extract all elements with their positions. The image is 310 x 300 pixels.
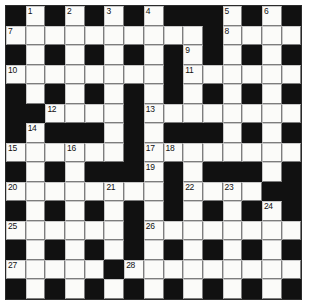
crossword-open-cell[interactable]: 1 [26,6,46,26]
crossword-open-cell[interactable] [104,65,124,85]
crossword-open-cell[interactable] [282,143,302,163]
crossword-open-cell[interactable] [262,65,282,85]
crossword-open-cell[interactable] [104,143,124,163]
crossword-open-cell[interactable] [85,221,105,241]
crossword-open-cell[interactable] [242,143,262,163]
crossword-open-cell[interactable] [203,221,223,241]
crossword-open-cell[interactable] [262,123,282,143]
crossword-open-cell[interactable]: 15 [6,143,26,163]
crossword-open-cell[interactable]: 19 [144,162,164,182]
crossword-open-cell[interactable] [144,45,164,65]
crossword-open-cell[interactable] [144,26,164,46]
crossword-open-cell[interactable]: 28 [124,260,144,280]
crossword-open-cell[interactable] [203,143,223,163]
crossword-open-cell[interactable] [26,162,46,182]
crossword-open-cell[interactable] [65,45,85,65]
crossword-open-cell[interactable] [223,65,243,85]
crossword-open-cell[interactable]: 8 [223,26,243,46]
crossword-open-cell[interactable] [262,162,282,182]
crossword-open-cell[interactable]: 20 [6,182,26,202]
crossword-open-cell[interactable]: 17 [144,143,164,163]
crossword-open-cell[interactable] [183,201,203,221]
crossword-open-cell[interactable] [45,143,65,163]
crossword-open-cell[interactable]: 5 [223,6,243,26]
crossword-open-cell[interactable] [26,279,46,299]
crossword-open-cell[interactable] [183,143,203,163]
crossword-open-cell[interactable] [203,65,223,85]
crossword-open-cell[interactable] [282,65,302,85]
crossword-open-cell[interactable] [26,143,46,163]
crossword-open-cell[interactable] [203,104,223,124]
crossword-open-cell[interactable] [262,260,282,280]
crossword-open-cell[interactable] [104,221,124,241]
crossword-open-cell[interactable] [65,84,85,104]
crossword-open-cell[interactable]: 2 [65,6,85,26]
crossword-open-cell[interactable] [45,182,65,202]
crossword-open-cell[interactable] [65,279,85,299]
crossword-open-cell[interactable] [164,260,184,280]
crossword-open-cell[interactable] [65,260,85,280]
crossword-open-cell[interactable] [242,221,262,241]
crossword-open-cell[interactable]: 4 [144,6,164,26]
crossword-open-cell[interactable] [223,260,243,280]
crossword-open-cell[interactable] [85,104,105,124]
crossword-open-cell[interactable]: 16 [65,143,85,163]
crossword-open-cell[interactable] [183,260,203,280]
crossword-open-cell[interactable] [144,182,164,202]
crossword-open-cell[interactable]: 13 [144,104,164,124]
crossword-open-cell[interactable] [65,221,85,241]
crossword-open-cell[interactable] [104,201,124,221]
crossword-open-cell[interactable] [183,279,203,299]
crossword-open-cell[interactable] [164,104,184,124]
crossword-open-cell[interactable] [183,104,203,124]
crossword-open-cell[interactable]: 21 [104,182,124,202]
crossword-open-cell[interactable] [104,279,124,299]
crossword-open-cell[interactable] [104,26,124,46]
crossword-open-cell[interactable] [85,143,105,163]
crossword-open-cell[interactable]: 23 [223,182,243,202]
crossword-open-cell[interactable] [124,65,144,85]
crossword-open-cell[interactable] [223,221,243,241]
crossword-open-cell[interactable] [183,26,203,46]
crossword-open-cell[interactable] [223,104,243,124]
crossword-open-cell[interactable]: 10 [6,65,26,85]
crossword-open-cell[interactable] [242,104,262,124]
crossword-open-cell[interactable] [183,84,203,104]
crossword-open-cell[interactable] [65,26,85,46]
crossword-open-cell[interactable] [124,182,144,202]
crossword-open-cell[interactable] [65,65,85,85]
crossword-open-cell[interactable] [282,260,302,280]
crossword-open-cell[interactable] [223,201,243,221]
crossword-open-cell[interactable] [85,260,105,280]
crossword-open-cell[interactable] [282,221,302,241]
crossword-open-cell[interactable] [104,45,124,65]
crossword-open-cell[interactable] [223,279,243,299]
crossword-open-cell[interactable] [144,84,164,104]
crossword-open-cell[interactable]: 7 [6,26,26,46]
crossword-open-cell[interactable] [242,26,262,46]
crossword-open-cell[interactable] [26,65,46,85]
crossword-open-cell[interactable]: 22 [183,182,203,202]
crossword-open-cell[interactable]: 24 [262,201,282,221]
crossword-open-cell[interactable] [26,260,46,280]
crossword-open-cell[interactable] [26,26,46,46]
crossword-open-cell[interactable] [26,182,46,202]
crossword-open-cell[interactable] [45,221,65,241]
crossword-open-cell[interactable] [203,182,223,202]
crossword-open-cell[interactable]: 6 [262,6,282,26]
crossword-open-cell[interactable] [144,260,164,280]
crossword-open-cell[interactable] [124,26,144,46]
crossword-open-cell[interactable] [85,182,105,202]
crossword-open-cell[interactable] [223,45,243,65]
crossword-open-cell[interactable]: 14 [26,123,46,143]
crossword-open-cell[interactable] [262,26,282,46]
crossword-open-cell[interactable] [85,65,105,85]
crossword-open-cell[interactable] [223,84,243,104]
crossword-open-cell[interactable] [242,260,262,280]
crossword-open-cell[interactable] [65,201,85,221]
crossword-open-cell[interactable] [144,240,164,260]
crossword-open-cell[interactable] [242,182,262,202]
crossword-open-cell[interactable] [104,123,124,143]
crossword-open-cell[interactable] [144,279,164,299]
crossword-open-cell[interactable] [45,65,65,85]
